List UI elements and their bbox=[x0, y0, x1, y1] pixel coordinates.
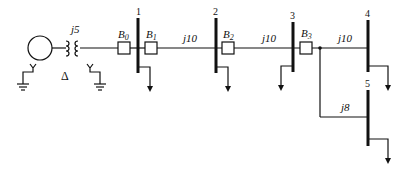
breaker-B3 bbox=[300, 42, 312, 54]
breaker-label: B3 bbox=[301, 27, 312, 41]
line-impedance-label: j10 bbox=[336, 32, 353, 44]
breaker-label: B1 bbox=[146, 28, 157, 42]
delta-symbol: Δ bbox=[61, 69, 69, 83]
transformer-impedance-label: j5 bbox=[69, 23, 80, 35]
breaker-B1 bbox=[145, 42, 157, 54]
generator-icon bbox=[28, 36, 52, 60]
line-impedance-label: j8 bbox=[339, 101, 350, 113]
bus-label: 5 bbox=[365, 78, 370, 89]
bus-label: 3 bbox=[290, 10, 295, 21]
junction-dot bbox=[318, 46, 322, 50]
line-impedance-label: j10 bbox=[181, 32, 198, 44]
breaker-B0 bbox=[118, 42, 130, 54]
breaker-label: B0 bbox=[118, 28, 129, 42]
transformer-secondary-icon bbox=[75, 41, 78, 56]
breaker-B2 bbox=[222, 42, 234, 54]
one-line-diagram: j5 Δ 1 2 3 4 5 B0 B1 B2 B3 j10 j10 j10 j… bbox=[0, 0, 409, 169]
bus-label: 4 bbox=[365, 8, 370, 19]
breaker-label: B2 bbox=[223, 28, 234, 42]
wye-ground-icon bbox=[23, 64, 36, 84]
transformer-primary-icon bbox=[66, 41, 69, 56]
load-arrow-icon bbox=[147, 85, 391, 164]
bus-label: 2 bbox=[213, 6, 218, 17]
bus-label: 1 bbox=[136, 6, 141, 17]
line-impedance-label: j10 bbox=[260, 32, 277, 44]
wye-ground-icon bbox=[87, 64, 100, 84]
